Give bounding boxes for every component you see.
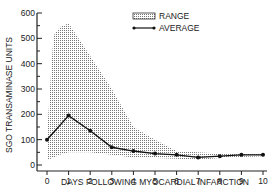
average-marker-icon <box>261 153 265 157</box>
average-marker-icon <box>218 154 222 158</box>
average-marker-icon <box>131 149 135 153</box>
average-legend-marker-icon <box>152 26 155 29</box>
y-tick-label: 600 <box>21 8 35 18</box>
average-marker-icon <box>67 114 71 118</box>
y-tick-label: 200 <box>21 109 35 119</box>
range-legend-swatch <box>133 13 155 19</box>
average-marker-icon <box>175 153 179 157</box>
y-tick-label: 400 <box>21 59 35 69</box>
average-legend-marker-icon <box>132 26 135 29</box>
average-marker-icon <box>88 129 92 133</box>
average-legend-label: AVERAGE <box>159 23 200 33</box>
chart: 0100200300400500600012345678910 SGO TRAN… <box>0 0 275 189</box>
x-axis-label: DAYS FOLLOWING MYOCARDIAL INFARCTION <box>61 177 249 187</box>
y-tick-label: 100 <box>21 135 35 145</box>
average-marker-icon <box>153 152 157 156</box>
y-axis-label: SGO TRANSAMINASE UNITS <box>4 37 14 153</box>
x-tick-label: 0 <box>45 176 50 186</box>
y-tick-label: 500 <box>21 33 35 43</box>
average-marker-icon <box>196 155 200 159</box>
y-tick-label: 0 <box>30 160 35 170</box>
range-area <box>47 23 263 160</box>
x-tick-label: 10 <box>258 176 268 186</box>
range-band <box>47 23 263 160</box>
average-marker-icon <box>45 138 49 142</box>
average-marker-icon <box>239 153 243 157</box>
legend: RANGE AVERAGE <box>132 11 199 33</box>
average-marker-icon <box>110 145 114 149</box>
y-tick-label: 300 <box>21 84 35 94</box>
range-legend-label: RANGE <box>159 11 190 21</box>
